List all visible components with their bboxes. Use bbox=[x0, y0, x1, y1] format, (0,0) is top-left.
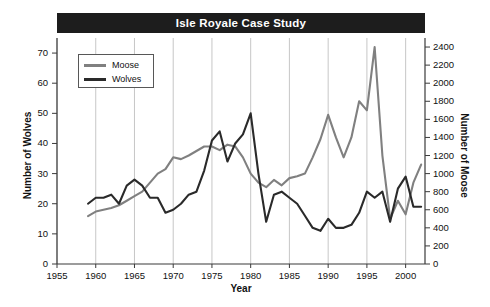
tick-label-x: 1960 bbox=[76, 270, 116, 281]
tick-label-right: 800 bbox=[433, 186, 467, 197]
tick-label-x: 1975 bbox=[192, 270, 232, 281]
legend-label-wolves: Wolves bbox=[112, 74, 141, 84]
tick-label-left: 70 bbox=[18, 47, 48, 58]
tick-label-left: 0 bbox=[18, 258, 48, 269]
chart-figure: Isle Royale Case Study Number of Wolves … bbox=[0, 0, 490, 307]
tick-label-right: 200 bbox=[433, 240, 467, 251]
tick-label-left: 40 bbox=[18, 137, 48, 148]
tick-label-x: 2000 bbox=[386, 270, 426, 281]
tick-label-right: 1400 bbox=[433, 131, 467, 142]
tick-label-x: 1965 bbox=[114, 270, 154, 281]
legend-item-moose: Moose bbox=[84, 58, 139, 72]
legend-item-wolves: Wolves bbox=[84, 72, 141, 86]
tick-label-right: 0 bbox=[433, 258, 467, 269]
tick-label-x: 1970 bbox=[153, 270, 193, 281]
tick-label-right: 400 bbox=[433, 222, 467, 233]
tick-label-right: 1600 bbox=[433, 113, 467, 124]
tick-label-x: 1985 bbox=[269, 270, 309, 281]
tick-label-right: 1200 bbox=[433, 150, 467, 161]
tick-label-left: 60 bbox=[18, 77, 48, 88]
legend-swatch-moose bbox=[84, 64, 106, 67]
tick-label-left: 30 bbox=[18, 168, 48, 179]
tick-label-right: 1000 bbox=[433, 168, 467, 179]
tick-label-left: 20 bbox=[18, 198, 48, 209]
tick-label-right: 600 bbox=[433, 204, 467, 215]
tick-label-x: 1990 bbox=[308, 270, 348, 281]
plot-area bbox=[0, 0, 490, 307]
series-line-wolves bbox=[88, 113, 421, 231]
tick-label-x: 1955 bbox=[37, 270, 77, 281]
chart-legend: Moose Wolves bbox=[78, 54, 154, 88]
tick-label-left: 10 bbox=[18, 228, 48, 239]
legend-swatch-wolves bbox=[84, 78, 106, 81]
tick-label-right: 2000 bbox=[433, 77, 467, 88]
tick-label-x: 1980 bbox=[231, 270, 271, 281]
x-axis-label: Year bbox=[57, 283, 425, 294]
tick-label-left: 50 bbox=[18, 107, 48, 118]
legend-label-moose: Moose bbox=[112, 60, 139, 70]
tick-label-right: 2400 bbox=[433, 41, 467, 52]
tick-label-x: 1995 bbox=[347, 270, 387, 281]
tick-label-right: 2200 bbox=[433, 59, 467, 70]
tick-label-right: 1800 bbox=[433, 95, 467, 106]
